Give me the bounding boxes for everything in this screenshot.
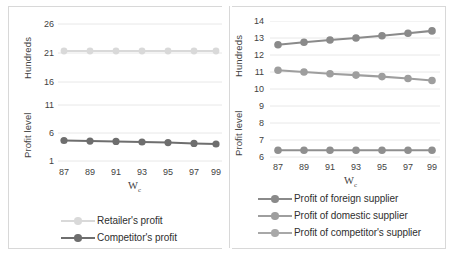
left-y-axis-title-upper: Hundreds bbox=[22, 22, 33, 94]
left-legend-item-retailers-profit[interactable]: Retailer's profit bbox=[61, 212, 177, 229]
right-xtick-89: 89 bbox=[295, 163, 313, 172]
right-legend-label-foreign-supplier: Profit of foreign supplier bbox=[294, 193, 398, 204]
left-grid-lower bbox=[58, 105, 222, 161]
legend-line-marker-icon bbox=[258, 228, 292, 238]
left-xtick-97: 97 bbox=[185, 168, 203, 177]
left-legend: Retailer's profit Competitor's profit bbox=[61, 212, 177, 246]
right-ytick-13: 13 bbox=[248, 34, 264, 43]
right-ytick-6: 6 bbox=[248, 153, 264, 162]
left-xtick-95: 95 bbox=[159, 168, 177, 177]
right-xtick-95: 95 bbox=[373, 163, 391, 172]
left-chart-panel: Hundreds Profit level 26 21 16 11 6 1 bbox=[0, 0, 230, 262]
left-x-axis-title-sub: c bbox=[138, 186, 141, 194]
left-ytick-11: 11 bbox=[38, 101, 54, 110]
legend-line-marker-icon bbox=[258, 194, 292, 204]
right-ytick-8: 8 bbox=[248, 119, 264, 128]
left-xtick-99: 99 bbox=[207, 168, 225, 177]
right-ytick-12: 12 bbox=[248, 51, 264, 60]
right-ytick-11: 11 bbox=[248, 68, 264, 77]
legend-line-marker-icon bbox=[61, 216, 95, 226]
legend-line-marker-icon bbox=[61, 233, 95, 243]
right-ytick-10: 10 bbox=[248, 85, 264, 94]
figure-container: Hundreds Profit level 26 21 16 11 6 1 bbox=[0, 0, 453, 262]
right-legend-label-competitors-supplier: Profit of competitor's supplier bbox=[294, 227, 421, 238]
left-xtick-91: 91 bbox=[107, 168, 125, 177]
left-x-axis-title-main: W bbox=[128, 180, 138, 191]
right-legend: Profit of foreign supplier Profit of dom… bbox=[258, 190, 421, 241]
right-plot-svg bbox=[270, 21, 440, 161]
left-legend-item-competitors-profit[interactable]: Competitor's profit bbox=[61, 229, 177, 246]
right-xtick-87: 87 bbox=[269, 163, 287, 172]
left-plot-area bbox=[58, 14, 222, 166]
left-xtick-93: 93 bbox=[133, 168, 151, 177]
right-series-competitors-supplier bbox=[274, 146, 436, 154]
right-x-axis-title: Wc bbox=[344, 175, 357, 189]
left-series-competitors-profit bbox=[60, 137, 219, 148]
right-xtick-99: 99 bbox=[423, 163, 441, 172]
left-legend-label-retailers-profit: Retailer's profit bbox=[97, 215, 163, 226]
right-x-axis-title-sub: c bbox=[354, 181, 357, 189]
left-plot-svg bbox=[58, 14, 222, 166]
right-chart-panel: Hundreds Profit level 14 13 12 11 10 9 8… bbox=[230, 0, 453, 262]
right-legend-label-domestic-supplier: Profit of domestic supplier bbox=[294, 210, 408, 221]
right-ytick-9: 9 bbox=[248, 102, 264, 111]
legend-line-marker-icon bbox=[258, 211, 292, 221]
right-ytick-14: 14 bbox=[248, 17, 264, 26]
right-y-axis-title-lower: Profit level bbox=[233, 92, 244, 174]
left-legend-label-competitors-profit: Competitor's profit bbox=[97, 232, 177, 243]
right-legend-item-domestic-supplier[interactable]: Profit of domestic supplier bbox=[258, 207, 421, 224]
left-ytick-6: 6 bbox=[38, 129, 54, 138]
right-plot-area bbox=[270, 21, 440, 161]
left-ytick-26: 26 bbox=[38, 20, 54, 29]
right-xtick-91: 91 bbox=[321, 163, 339, 172]
left-y-axis-title-lower: Profit level bbox=[22, 96, 33, 174]
right-series-domestic-supplier bbox=[274, 67, 436, 85]
left-ytick-1: 1 bbox=[38, 157, 54, 166]
left-ytick-16: 16 bbox=[38, 78, 54, 87]
right-y-axis-title-upper: Hundreds bbox=[233, 20, 244, 92]
left-xtick-87: 87 bbox=[55, 168, 73, 177]
left-ytick-21: 21 bbox=[38, 49, 54, 58]
right-xtick-97: 97 bbox=[399, 163, 417, 172]
right-legend-item-foreign-supplier[interactable]: Profit of foreign supplier bbox=[258, 190, 421, 207]
right-legend-item-competitors-supplier[interactable]: Profit of competitor's supplier bbox=[258, 224, 421, 241]
right-ytick-7: 7 bbox=[248, 136, 264, 145]
left-xtick-89: 89 bbox=[81, 168, 99, 177]
left-x-axis-title: Wc bbox=[128, 180, 141, 194]
right-xtick-93: 93 bbox=[347, 163, 365, 172]
right-x-axis-title-main: W bbox=[344, 175, 354, 186]
